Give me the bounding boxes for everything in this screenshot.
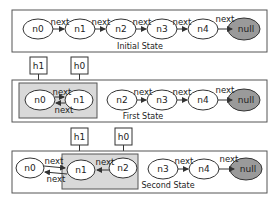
svg-text:n1: n1	[74, 24, 85, 34]
edge-label: next	[133, 17, 152, 27]
initial-state-panel: n0 n1 n2 n3 n4 null next next next next …	[12, 10, 267, 52]
node-n2: n2	[106, 19, 136, 39]
svg-text:h0: h0	[74, 61, 86, 71]
node-n4: n4	[188, 19, 218, 39]
state-caption: Second State	[141, 181, 194, 190]
edge-label: next	[92, 17, 111, 27]
node-n0: n0	[23, 19, 53, 39]
svg-text:h0: h0	[118, 132, 130, 142]
state-caption: First State	[123, 112, 164, 121]
svg-text:h1: h1	[74, 132, 85, 142]
edge-label: next	[134, 87, 153, 97]
first-state-panel: h1 h0 n0 n1 n2 n3 n4 null next next next…	[12, 57, 267, 122]
svg-text:h1: h1	[33, 61, 44, 71]
node-n1: n1	[65, 19, 95, 39]
svg-text:n0: n0	[32, 24, 44, 34]
svg-text:n2: n2	[115, 24, 126, 34]
edge-label: next	[47, 174, 66, 184]
edge-label: next	[220, 154, 239, 164]
svg-text:n0: n0	[24, 163, 36, 173]
edge-label: next	[175, 156, 194, 166]
edge-label: next	[96, 157, 115, 167]
state-caption: Initial State	[117, 42, 163, 51]
edge-label: next	[173, 17, 192, 27]
second-state-panel: h1 h0 n0 n1 n2 n3 n4 null next next next…	[12, 128, 267, 193]
edge-label: next	[173, 87, 192, 97]
node-n0: n0	[25, 90, 55, 110]
linked-list-reversal-diagram: n0 n1 n2 n3 n4 null next next next next …	[0, 0, 279, 202]
edge-label: next	[45, 156, 64, 166]
svg-text:null: null	[240, 164, 256, 174]
svg-text:n3: n3	[156, 95, 167, 105]
node-n4: n4	[189, 159, 219, 179]
edge-label: next	[51, 17, 70, 27]
edge-label: next	[53, 87, 72, 97]
svg-text:n0: n0	[34, 95, 46, 105]
svg-text:n2: n2	[116, 95, 127, 105]
node-n2: n2	[107, 90, 137, 110]
svg-text:n1: n1	[75, 165, 86, 175]
svg-text:n2: n2	[117, 163, 128, 173]
svg-text:null: null	[238, 24, 254, 34]
node-n0: n0	[16, 158, 44, 178]
node-n3: n3	[148, 159, 178, 179]
svg-text:n4: n4	[197, 95, 209, 105]
svg-text:n4: n4	[198, 164, 210, 174]
svg-text:null: null	[238, 95, 254, 105]
edge-label: next	[216, 85, 235, 95]
svg-text:n3: n3	[157, 164, 168, 174]
node-n1: n1	[67, 160, 95, 180]
svg-text:n1: n1	[73, 95, 84, 105]
svg-text:n3: n3	[156, 24, 167, 34]
edge-label: next	[55, 105, 74, 115]
node-n4: n4	[188, 90, 218, 110]
edge-label: next	[216, 14, 235, 24]
svg-text:n4: n4	[197, 24, 209, 34]
